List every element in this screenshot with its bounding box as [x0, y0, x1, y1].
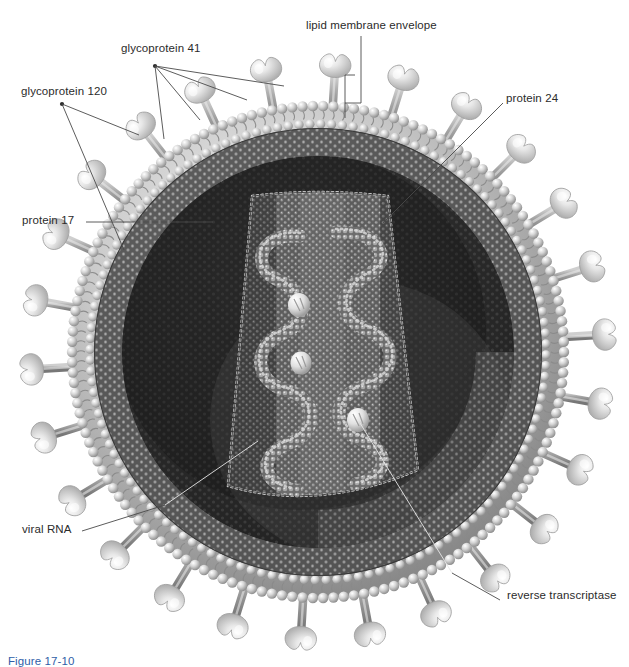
phospholipid-head: [512, 491, 522, 501]
phospholipid-head: [445, 139, 455, 149]
phospholipid-head: [80, 266, 90, 276]
phospholipid-head: [108, 483, 118, 493]
phospholipid-head: [199, 565, 209, 575]
phospholipid-head: [553, 398, 563, 408]
phospholipid-head: [287, 102, 297, 112]
label-protein-17: protein 17: [22, 214, 74, 227]
phospholipid-head: [257, 586, 267, 596]
phospholipid-head: [77, 276, 87, 286]
phospholipid-head: [328, 592, 338, 602]
glycoprotein-120-head: [447, 88, 486, 124]
phospholipid-head: [84, 256, 94, 266]
phospholipid-head: [327, 120, 336, 129]
phospholipid-head: [375, 567, 384, 576]
phospholipid-head: [284, 121, 293, 130]
phospholipid-head: [499, 186, 509, 196]
phospholipid-head: [88, 247, 98, 257]
phospholipid-head: [528, 228, 538, 238]
phospholipid-head: [389, 581, 399, 591]
glycoprotein-120-head: [29, 419, 61, 456]
phospholipid-head: [538, 247, 548, 257]
phospholipid-head: [80, 428, 90, 438]
phospholipid-head: [75, 286, 85, 296]
label-protein-24: protein 24: [506, 92, 558, 105]
label-lipid-membrane-envelope: lipid membrane envelope: [306, 19, 437, 32]
figure-caption: Figure 17-10: [8, 655, 74, 667]
phospholipid-head: [541, 350, 550, 359]
glycoprotein-120-head: [284, 626, 317, 651]
phospholipid-head: [328, 101, 338, 111]
phospholipid-head: [289, 574, 298, 583]
phospholipid-head: [120, 194, 130, 204]
phospholipid-head: [533, 237, 543, 247]
glycoprotein-120-head: [576, 248, 608, 285]
phospholipid-head: [343, 573, 352, 582]
phospholipid-head: [379, 584, 389, 594]
phospholipid-head: [97, 465, 107, 475]
phospholipid-head: [523, 219, 533, 229]
phospholipid-head: [408, 120, 418, 130]
phospholipid-head: [297, 101, 307, 111]
phospholipid-head: [227, 577, 237, 587]
phospholipid-head: [339, 591, 349, 601]
phospholipid-head: [462, 151, 472, 161]
phospholipid-head: [277, 590, 287, 600]
phospholipid-head: [555, 306, 565, 316]
phospholipid-head: [389, 113, 399, 123]
phospholipid-head: [541, 339, 550, 348]
phospholipid-head: [540, 372, 549, 381]
phospholipid-head: [470, 536, 480, 546]
reverse-transcriptase-enzyme: [291, 352, 312, 375]
phospholipid-head: [559, 337, 569, 347]
phospholipid-head: [237, 581, 247, 591]
phospholipid-head: [332, 575, 341, 584]
phospholipid-head: [267, 588, 277, 598]
phospholipid-head: [181, 139, 191, 149]
phospholipid-head: [190, 134, 200, 144]
phospholipid-head: [506, 500, 516, 510]
phospholipid-head: [87, 323, 96, 332]
figure-root: glycoprotein 41 glycoprotein 120 lipid m…: [0, 0, 629, 667]
phospholipid-head: [199, 129, 209, 139]
phospholipid-head: [399, 577, 409, 587]
phospholipid-head: [86, 366, 95, 375]
phospholipid-head: [551, 286, 561, 296]
phospholipid-head: [217, 120, 227, 130]
phospholipid-head: [89, 388, 98, 397]
phospholipid-head: [67, 337, 77, 347]
phospholipid-head: [278, 573, 287, 582]
phospholipid-head: [354, 572, 363, 581]
phospholipid-head: [294, 120, 303, 129]
phospholipid-head: [287, 591, 297, 601]
phospholipid-head: [349, 103, 359, 113]
phospholipid-head: [349, 590, 359, 600]
phospholipid-head: [316, 119, 325, 128]
phospholipid-head: [67, 357, 77, 367]
phospholipid-head: [172, 145, 182, 155]
reverse-transcriptase-enzyme: [288, 293, 310, 317]
phospholipid-head: [518, 211, 528, 221]
phospholipid-head: [257, 107, 267, 117]
phospholipid-head: [542, 437, 552, 447]
phospholipid-head: [70, 306, 80, 316]
phospholipid-head: [559, 357, 569, 367]
phospholipid-head: [120, 500, 130, 510]
phospholipid-head: [208, 124, 218, 134]
phospholipid-head: [311, 575, 320, 584]
phospholipid-head: [542, 256, 552, 266]
reverse-transcriptase-enzyme: [347, 408, 369, 432]
phospholipid-head: [181, 555, 191, 565]
phospholipid-head: [70, 388, 80, 398]
glycoprotein-120-head: [55, 481, 91, 520]
phospholipid-head: [533, 456, 543, 466]
phospholipid-head: [557, 316, 567, 326]
phospholipid-head: [548, 418, 558, 428]
phospholipid-head: [164, 151, 174, 161]
phospholipid-head: [156, 157, 166, 167]
phospholipid-head: [164, 543, 174, 553]
phospholipid-head: [97, 228, 107, 238]
phospholipid-head: [436, 134, 446, 144]
phospholipid-head: [190, 560, 200, 570]
phospholipid-head: [555, 388, 565, 398]
phospholipid-head: [379, 110, 389, 120]
